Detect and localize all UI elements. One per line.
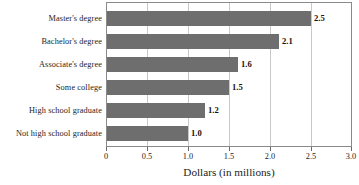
tick-label-2-5: 2.5	[296, 152, 326, 162]
category-label-bachelors: Bachelor's degree	[0, 37, 102, 46]
bar-masters[interactable]	[107, 11, 311, 26]
bar-associates[interactable]	[107, 57, 238, 72]
category-axis-labels: Master's degree Bachelor's degree Associ…	[0, 2, 102, 147]
tick-label-1-5: 1.5	[214, 152, 244, 162]
tick-label-1-0: 1.0	[173, 152, 203, 162]
bar-hs-graduate[interactable]	[107, 103, 205, 118]
tick-mark-3-0	[351, 147, 352, 151]
bar-chart: Master's degree Bachelor's degree Associ…	[0, 0, 359, 185]
category-label-masters: Master's degree	[0, 14, 102, 23]
category-label-some-college: Some college	[0, 83, 102, 92]
tick-label-2-0: 2.0	[255, 152, 285, 162]
tick-mark-2-0	[270, 147, 271, 151]
category-label-associates: Associate's degree	[0, 60, 102, 69]
bar-bachelors[interactable]	[107, 34, 279, 49]
tick-mark-2-5	[311, 147, 312, 151]
tick-mark-1-0	[188, 147, 189, 151]
tick-label-0: 0	[91, 152, 121, 162]
category-label-not-hs-grad: Not high school graduate	[0, 129, 102, 138]
bar-not-hs-grad[interactable]	[107, 126, 188, 141]
tick-label-0-5: 0.5	[132, 152, 162, 162]
tick-mark-0-5	[147, 147, 148, 151]
x-axis-title: Dollars (in millions)	[106, 165, 352, 179]
category-label-hs-graduate: High school graduate	[0, 106, 102, 115]
tick-label-3-0: 3.0	[336, 152, 359, 162]
plot-area	[106, 2, 352, 147]
tick-mark-1-5	[229, 147, 230, 151]
bars-layer	[107, 3, 351, 146]
bar-some-college[interactable]	[107, 80, 229, 95]
tick-mark-0	[106, 147, 107, 151]
